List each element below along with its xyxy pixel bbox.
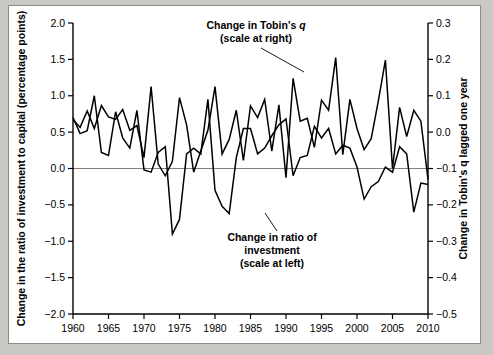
left-axis-tick-label: −2.0 — [44, 308, 65, 320]
left-axis-title: Change in the ratio of investment to cap… — [15, 11, 27, 327]
bottom-axis-tick-label: 2000 — [345, 322, 369, 334]
bottom-axis-tick-label: 2010 — [416, 322, 440, 334]
left-axis-tick-label: −1.0 — [44, 235, 65, 247]
left-axis-tick-label: 1.5 — [50, 53, 65, 65]
right-axis-tick-label: 0.0 — [436, 126, 451, 138]
left-axis-tick-label: −0.5 — [44, 198, 65, 210]
investment-annotation-line-3: (scale at left) — [240, 257, 304, 269]
bottom-axis-tick-label: 1995 — [310, 322, 334, 334]
right-axis-tick-label: −0.2 — [436, 198, 457, 210]
investment-annotation: Change in ratio ofinvestment(scale at le… — [227, 231, 317, 269]
right-axis-tick-label: 0.3 — [436, 17, 451, 29]
bottom-axis-tick-label: 1960 — [61, 322, 85, 334]
bottom-axis-tick-label: 1970 — [132, 322, 156, 334]
bottom-axis-tick-label: 1990 — [274, 322, 298, 334]
tobins-q-annotation-leader — [261, 48, 304, 72]
left-axis-tick-label: 1.0 — [50, 89, 65, 101]
bottom-axis-tick-label: 1975 — [168, 322, 192, 334]
series-line-tobins-q — [73, 58, 428, 180]
bottom-axis-tick-label: 2005 — [381, 322, 405, 334]
left-axis-tick-label: 2.0 — [50, 17, 65, 29]
tobins-q-annotation-line-1: Change in Tobin’s q — [206, 19, 306, 31]
right-axis-tick-label: 0.1 — [436, 89, 451, 101]
right-axis-tick-label: −0.1 — [436, 162, 457, 174]
left-axis-tick-label: 0.0 — [50, 162, 65, 174]
right-axis-tick-label: 0.2 — [436, 53, 451, 65]
investment-annotation-line-2: investment — [244, 244, 300, 256]
right-axis-title: Change in Tobin's q lagged one year — [457, 78, 469, 260]
right-axis-tick-label: −0.5 — [436, 308, 457, 320]
left-axis-tick-label: −1.5 — [44, 271, 65, 283]
tobins-q-symbol: q — [299, 19, 306, 31]
tobins-q-annotation-line-2: (scale at right) — [220, 32, 292, 44]
chart-svg: −2.0−1.5−1.0−0.50.00.51.01.52.0−0.5−0.4−… — [9, 6, 480, 343]
chart-figure: −2.0−1.5−1.0−0.50.00.51.01.52.0−0.5−0.4−… — [8, 5, 481, 344]
tobins-q-annotation: Change in Tobin’s q(scale at right) — [206, 19, 306, 44]
investment-annotation-line-1: Change in ratio of — [227, 231, 317, 243]
bottom-axis-tick-label: 1965 — [97, 322, 121, 334]
bottom-axis-tick-label: 1980 — [203, 322, 227, 334]
bottom-axis-tick-label: 1985 — [239, 322, 263, 334]
left-axis-tick-label: 0.5 — [50, 126, 65, 138]
right-axis-tick-label: −0.4 — [436, 271, 457, 283]
investment-annotation-leader — [265, 213, 277, 231]
right-axis-tick-label: −0.3 — [436, 235, 457, 247]
